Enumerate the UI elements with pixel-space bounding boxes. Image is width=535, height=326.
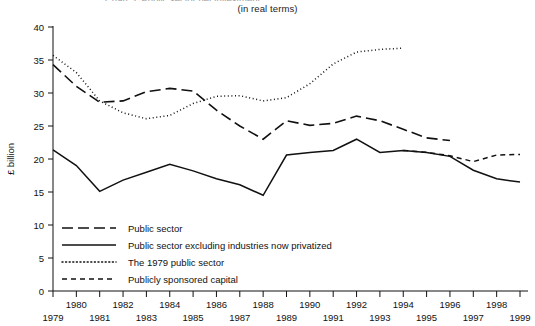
x-tick-label: 1997 [463, 312, 484, 323]
x-tick-label: 1982 [112, 299, 133, 310]
line-chart-svg: 0510152025303540£ billion197919801981198… [0, 0, 535, 326]
x-tick-label: 1990 [299, 299, 320, 310]
x-tick-label: 1988 [253, 299, 274, 310]
y-tick-label: 30 [33, 88, 44, 99]
x-tick-label: 1987 [229, 312, 250, 323]
y-tick-label: 25 [33, 121, 44, 132]
x-tick-label: 1991 [323, 312, 344, 323]
y-tick-label: 0 [39, 286, 44, 297]
chart-figure: Chart 3: Public sector net investment (i… [0, 0, 535, 326]
x-tick-label: 1985 [183, 312, 204, 323]
y-tick-label: 15 [33, 187, 44, 198]
legend-label: Public sector [128, 223, 182, 234]
x-tick-label: 1981 [89, 312, 110, 323]
y-tick-label: 5 [39, 253, 44, 264]
x-tick-label: 1999 [509, 312, 530, 323]
x-tick-label: 1980 [66, 299, 87, 310]
x-tick-label: 1989 [276, 312, 297, 323]
x-tick-label: 1983 [136, 312, 157, 323]
series-line [53, 65, 450, 141]
y-tick-label: 40 [33, 22, 44, 33]
x-tick-label: 1986 [206, 299, 227, 310]
x-tick-label: 1994 [393, 299, 414, 310]
y-axis-label: £ billion [5, 143, 16, 175]
legend-label: The 1979 public sector [128, 257, 224, 268]
x-tick-label: 1993 [369, 312, 390, 323]
y-tick-label: 10 [33, 220, 44, 231]
x-tick-label: 1996 [439, 299, 460, 310]
x-tick-label: 1979 [42, 312, 63, 323]
y-tick-label: 35 [33, 55, 44, 66]
series-line [53, 48, 403, 119]
legend-label: Publicly sponsored capital [128, 274, 238, 285]
x-tick-label: 1995 [416, 312, 437, 323]
y-tick-label: 20 [33, 154, 44, 165]
legend-label: Public sector excluding industries now p… [128, 240, 332, 251]
series-line [53, 139, 520, 195]
x-tick-label: 1984 [159, 299, 180, 310]
x-tick-label: 1992 [346, 299, 367, 310]
x-tick-label: 1998 [486, 299, 507, 310]
